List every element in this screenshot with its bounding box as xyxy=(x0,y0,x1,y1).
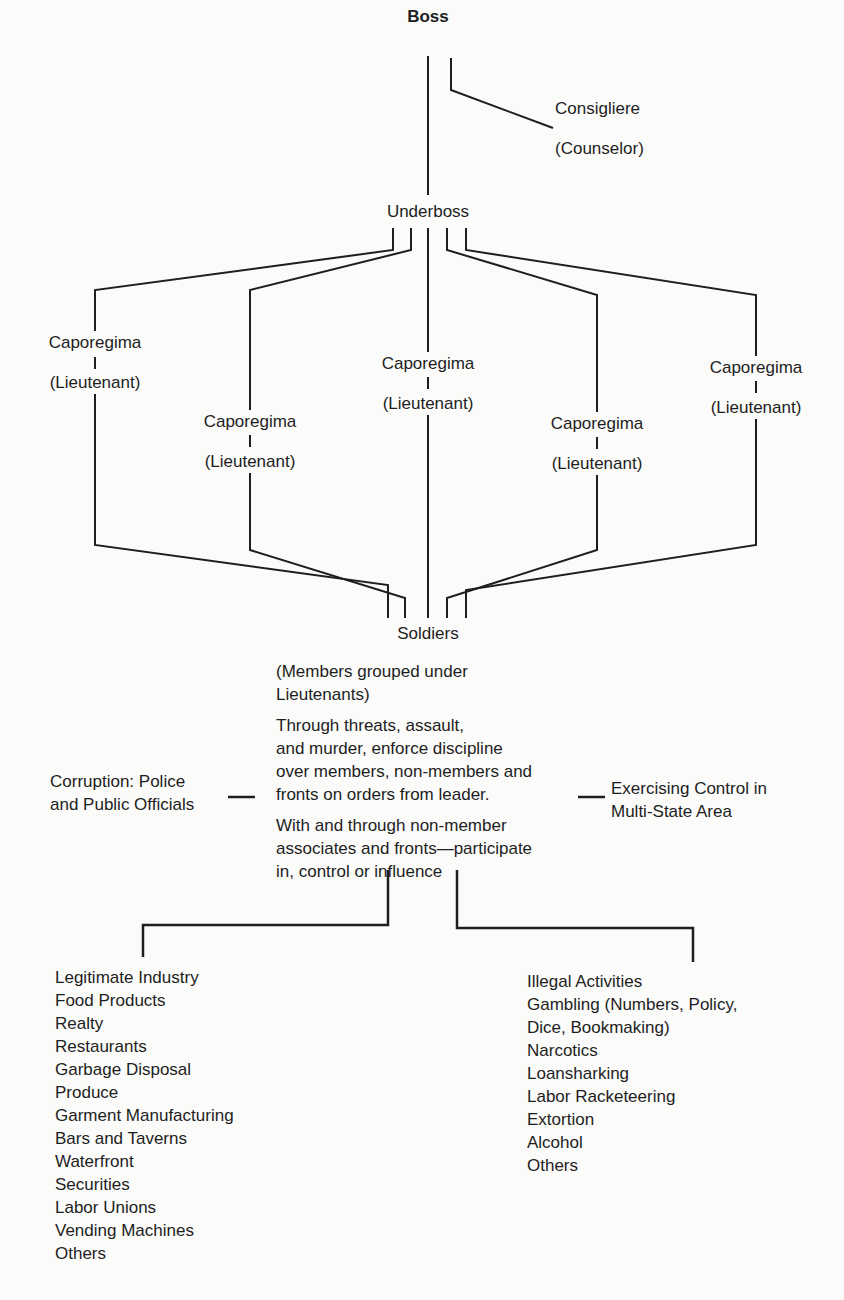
caporegima-2-title: Caporegima xyxy=(195,410,305,433)
list-item: Restaurants xyxy=(55,1035,234,1058)
caporegima-3-title: Caporegima xyxy=(373,352,483,375)
boss-label: Boss xyxy=(403,5,453,28)
list-item: Garbage Disposal xyxy=(55,1058,234,1081)
side-line: Multi-State Area xyxy=(611,800,767,823)
list-item: Produce xyxy=(55,1081,234,1104)
side-line: and Public Officials xyxy=(50,793,194,816)
note-line: fronts on orders from leader. xyxy=(276,783,532,806)
list-item: Extortion xyxy=(527,1108,737,1131)
side-line: Exercising Control in xyxy=(611,777,767,800)
list-item: Others xyxy=(55,1242,234,1265)
caporegima-3-sub: (Lieutenant) xyxy=(368,392,488,415)
note-line: With and through non-member xyxy=(276,814,532,837)
corruption-label: Corruption: Police and Public Officials xyxy=(50,770,194,816)
list-item: Others xyxy=(527,1154,737,1177)
list-item: Alcohol xyxy=(527,1131,737,1154)
list-item: Labor Racketeering xyxy=(527,1085,737,1108)
caporegima-4-title: Caporegima xyxy=(542,412,652,435)
note-line: associates and fronts—participate xyxy=(276,837,532,860)
legitimate-industry-list: Legitimate Industry Food Products Realty… xyxy=(55,966,234,1265)
caporegima-2-sub: (Lieutenant) xyxy=(190,450,310,473)
note-line: Through threats, assault, xyxy=(276,714,532,737)
list-item: Food Products xyxy=(55,989,234,1012)
multistate-control-label: Exercising Control in Multi-State Area xyxy=(611,777,767,823)
illegal-activities-list: Illegal Activities Gambling (Numbers, Po… xyxy=(527,970,737,1177)
soldiers-label: Soldiers xyxy=(378,622,478,645)
list-heading: Legitimate Industry xyxy=(55,966,234,989)
soldiers-note-influence: With and through non-member associates a… xyxy=(276,814,532,883)
org-chart: Boss Consigliere (Counselor) Underboss C… xyxy=(0,0,844,1300)
note-line: over members, non-members and xyxy=(276,760,532,783)
underboss-label: Underboss xyxy=(378,200,478,223)
list-item: Dice, Bookmaking) xyxy=(527,1016,737,1039)
soldiers-note-discipline: Through threats, assault, and murder, en… xyxy=(276,714,532,806)
list-item: Securities xyxy=(55,1173,234,1196)
consigliere-label: Consigliere xyxy=(555,97,640,120)
caporegima-1-sub: (Lieutenant) xyxy=(35,371,155,394)
side-line: Corruption: Police xyxy=(50,770,194,793)
list-item: Labor Unions xyxy=(55,1196,234,1219)
soldiers-note-grouping: (Members grouped under Lieutenants) xyxy=(276,660,516,706)
list-item: Vending Machines xyxy=(55,1219,234,1242)
caporegima-5-title: Caporegima xyxy=(701,356,811,379)
list-item: Gambling (Numbers, Policy, xyxy=(527,993,737,1016)
list-item: Realty xyxy=(55,1012,234,1035)
list-item: Waterfront xyxy=(55,1150,234,1173)
list-heading: Illegal Activities xyxy=(527,970,737,993)
consigliere-sub-label: (Counselor) xyxy=(555,137,644,160)
list-item: Bars and Taverns xyxy=(55,1127,234,1150)
caporegima-5-sub: (Lieutenant) xyxy=(696,396,816,419)
list-item: Narcotics xyxy=(527,1039,737,1062)
note-line: and murder, enforce discipline xyxy=(276,737,532,760)
list-item: Loansharking xyxy=(527,1062,737,1085)
list-item: Garment Manufacturing xyxy=(55,1104,234,1127)
caporegima-1-title: Caporegima xyxy=(40,331,150,354)
caporegima-4-sub: (Lieutenant) xyxy=(537,452,657,475)
note-line: in, control or influence xyxy=(276,860,532,883)
